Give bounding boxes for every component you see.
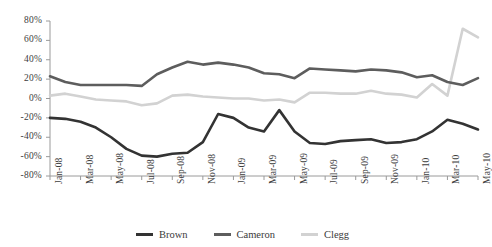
x-axis-tick-label: Jan-08 bbox=[54, 157, 64, 184]
x-axis-tick-label: Jan-09 bbox=[237, 157, 247, 184]
x-axis-tick-label: Jul-08 bbox=[146, 159, 156, 184]
legend-swatch-icon bbox=[136, 233, 153, 236]
x-axis-tick-label: Sep-08 bbox=[176, 156, 186, 184]
x-axis-tick-label: Mar-08 bbox=[85, 154, 95, 184]
legend-item-cameron: Cameron bbox=[214, 229, 276, 240]
chart-legend: BrownCameronClegg bbox=[0, 222, 485, 247]
legend-item-brown: Brown bbox=[136, 229, 188, 240]
y-axis-tick-label: -60% bbox=[0, 151, 42, 161]
y-axis-tick-label: 60% bbox=[0, 34, 42, 44]
y-axis-tick-label: 20% bbox=[0, 73, 42, 83]
x-axis-tick-label: May-10 bbox=[482, 153, 492, 184]
series-line-cameron bbox=[50, 62, 478, 86]
legend-swatch-icon bbox=[214, 233, 231, 236]
legend-label: Cameron bbox=[237, 229, 276, 240]
x-axis-tick-label: May-08 bbox=[115, 153, 125, 184]
x-axis-tick-label: Nov-09 bbox=[390, 154, 400, 184]
y-axis-tick-label: -80% bbox=[0, 170, 42, 180]
series-line-clegg bbox=[50, 29, 478, 106]
x-axis-tick-label: Nov-08 bbox=[207, 154, 217, 184]
y-axis-tick-label: 80% bbox=[0, 15, 42, 25]
x-axis-tick-label: Mar-09 bbox=[268, 154, 278, 184]
x-axis-tick-label: Jul-09 bbox=[329, 159, 339, 184]
x-axis-tick-label: Jan-10 bbox=[421, 157, 431, 184]
x-axis-tick-label: Mar-10 bbox=[451, 154, 461, 184]
legend-label: Clegg bbox=[324, 229, 349, 240]
x-axis-tick-label: May-09 bbox=[299, 153, 309, 184]
x-axis-tick-label: Sep-09 bbox=[360, 156, 370, 184]
y-axis-tick-label: -40% bbox=[0, 131, 42, 141]
legend-label: Brown bbox=[159, 229, 188, 240]
y-axis-tick-label: 40% bbox=[0, 54, 42, 64]
series-line-brown bbox=[50, 110, 478, 157]
legend-item-clegg: Clegg bbox=[301, 229, 349, 240]
y-axis-tick-label: -20% bbox=[0, 112, 42, 122]
legend-swatch-icon bbox=[301, 233, 318, 236]
y-axis-tick-label: 0% bbox=[0, 93, 42, 103]
